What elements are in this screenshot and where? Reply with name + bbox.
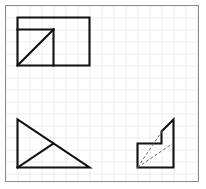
geometry-figure-container (0, 0, 206, 189)
geometry-figure-svg (0, 0, 206, 189)
